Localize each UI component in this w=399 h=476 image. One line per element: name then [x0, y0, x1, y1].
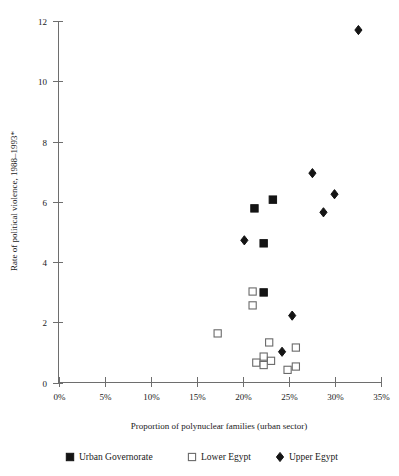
legend-label: Urban Governorate	[79, 452, 153, 462]
x-tick-label: 15%	[189, 392, 206, 402]
y-tick-label: 12	[38, 17, 47, 27]
legend-item-lower-egypt: Lower Egypt	[188, 452, 251, 462]
legend-item-upper-egypt: Upper Egypt	[276, 452, 338, 462]
y-tick-label: 2	[43, 318, 48, 328]
data-point-lower-egypt	[214, 330, 221, 337]
data-point-lower-egypt	[253, 359, 260, 366]
data-point-lower-egypt	[188, 453, 195, 460]
scatter-plot-figure: 024681012 0%5%10%15%20%25%30%35% Proport…	[0, 0, 399, 476]
data-point-layer	[214, 25, 362, 373]
data-point-upper-egypt	[241, 236, 248, 245]
data-point-lower-egypt	[260, 361, 267, 368]
y-axis-tick-labels: 024681012	[38, 17, 48, 389]
chart-legend: Urban GovernorateLower EgyptUpper Egypt	[66, 452, 338, 462]
data-point-urban-governorate	[66, 453, 73, 460]
series-upper-egypt	[241, 25, 362, 356]
data-point-upper-egypt	[309, 169, 316, 178]
data-point-urban-governorate	[260, 240, 267, 247]
data-point-lower-egypt	[260, 353, 267, 360]
chart-canvas: 024681012 0%5%10%15%20%25%30%35% Proport…	[0, 0, 399, 476]
data-point-urban-governorate	[260, 289, 267, 296]
data-point-lower-egypt	[249, 302, 256, 309]
data-point-lower-egypt	[249, 288, 256, 295]
y-tick-label: 10	[38, 77, 48, 87]
legend-label: Upper Egypt	[289, 452, 338, 462]
legend-label: Lower Egypt	[201, 452, 251, 462]
series-lower-egypt	[214, 288, 299, 374]
data-point-upper-egypt	[331, 190, 338, 199]
data-point-upper-egypt	[289, 311, 296, 320]
data-point-lower-egypt	[292, 363, 299, 370]
data-point-lower-egypt	[267, 357, 274, 364]
x-axis-title: Proportion of polynuclear families (urba…	[131, 421, 308, 431]
x-axis-tick-labels: 0%5%10%15%20%25%30%35%	[54, 392, 391, 402]
x-tick-label: 35%	[373, 392, 390, 402]
legend-item-urban-governorate: Urban Governorate	[66, 452, 152, 462]
data-point-upper-egypt	[355, 25, 362, 34]
x-tick-label: 10%	[143, 392, 160, 402]
data-point-upper-egypt	[320, 208, 327, 217]
y-tick-label: 0	[43, 379, 48, 389]
data-point-urban-governorate	[269, 196, 276, 203]
y-tick-label: 6	[43, 198, 48, 208]
x-tick-label: 0%	[54, 392, 67, 402]
data-point-urban-governorate	[251, 205, 258, 212]
data-point-lower-egypt	[292, 344, 299, 351]
x-tick-label: 30%	[327, 392, 344, 402]
data-point-upper-egypt	[276, 452, 283, 461]
y-tick-label: 4	[43, 258, 48, 268]
data-point-upper-egypt	[278, 347, 285, 356]
series-urban-governorate	[251, 196, 277, 296]
data-point-lower-egypt	[284, 366, 291, 373]
data-point-lower-egypt	[266, 339, 273, 346]
x-tick-label: 20%	[235, 392, 252, 402]
y-tick-label: 8	[43, 138, 48, 148]
x-tick-label: 25%	[281, 392, 298, 402]
x-tick-label: 5%	[100, 392, 113, 402]
y-axis-title: Rate of political violence, 1988–1993*	[9, 130, 19, 271]
